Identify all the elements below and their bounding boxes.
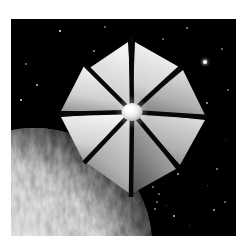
space-photo bbox=[11, 19, 236, 236]
image-frame bbox=[0, 0, 248, 246]
sail-hub bbox=[115, 95, 149, 129]
solar-sail bbox=[11, 19, 236, 236]
sail-svg bbox=[11, 19, 236, 236]
